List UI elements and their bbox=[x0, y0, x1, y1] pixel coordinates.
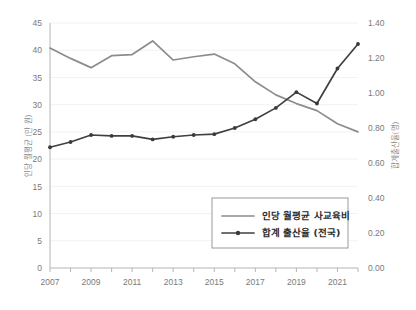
series-marker bbox=[192, 133, 196, 137]
series-marker bbox=[295, 90, 299, 94]
y-axis-left-tick-label: 15 bbox=[33, 182, 43, 192]
series-marker bbox=[110, 134, 114, 138]
series-marker bbox=[356, 42, 360, 46]
series-marker bbox=[274, 106, 278, 110]
x-axis-tick-label: 2015 bbox=[205, 277, 224, 287]
legend-marker-1 bbox=[236, 231, 240, 235]
series-marker bbox=[336, 67, 340, 71]
x-axis-tick-label: 2017 bbox=[246, 277, 265, 287]
y-axis-left-tick-label: 30 bbox=[33, 100, 43, 110]
series-marker bbox=[233, 126, 237, 130]
y-axis-left-tick-label: 35 bbox=[33, 73, 43, 83]
x-axis-tick-label: 2019 bbox=[287, 277, 306, 287]
y-axis-left-tick-label: 40 bbox=[33, 45, 43, 55]
y-axis-left-tick-label: 45 bbox=[33, 18, 43, 28]
legend-label-0: 인당 월평균 사교육비 bbox=[262, 210, 350, 221]
y-axis-right-tick-label: 0.00 bbox=[368, 263, 385, 273]
series-marker bbox=[212, 132, 216, 136]
series-marker bbox=[253, 117, 257, 121]
chart-legend: 인당 월평균 사교육비합계 출산율 (전국) bbox=[212, 198, 350, 248]
y-axis-left-tick-label: 20 bbox=[33, 154, 43, 164]
y-axis-left-title: 인당 월평균 (만 원) bbox=[23, 114, 33, 176]
y-axis-right-tick-label: 1.20 bbox=[368, 53, 385, 63]
x-axis-tick-label: 2011 bbox=[123, 277, 142, 287]
y-axis-right-tick-label: 1.40 bbox=[368, 18, 385, 28]
chart-background bbox=[0, 0, 416, 310]
series-marker bbox=[315, 102, 319, 106]
chart-container: 051015202530354045 0.000.200.400.600.801… bbox=[0, 0, 416, 310]
series-marker bbox=[130, 134, 134, 138]
y-axis-right-title: 합계출산율(명) bbox=[390, 122, 400, 170]
x-axis-tick-label: 2021 bbox=[328, 277, 347, 287]
y-axis-left-tick-label: 10 bbox=[33, 209, 43, 219]
series-marker bbox=[89, 133, 93, 137]
legend-box bbox=[212, 198, 348, 248]
x-axis-tick-label: 2013 bbox=[164, 277, 183, 287]
y-axis-left-tick-label: 0 bbox=[37, 263, 42, 273]
series-marker bbox=[151, 137, 155, 141]
y-axis-right-tick-label: 1.00 bbox=[368, 88, 385, 98]
y-axis-right-tick-label: 0.20 bbox=[368, 228, 385, 238]
y-axis-right-tick-label: 0.40 bbox=[368, 193, 385, 203]
series-marker bbox=[69, 140, 73, 144]
legend-label-1: 합계 출산율 (전국) bbox=[262, 227, 340, 238]
x-axis-tick-label: 2007 bbox=[41, 277, 60, 287]
y-axis-right-tick-label: 0.60 bbox=[368, 158, 385, 168]
y-axis-right-tick-label: 0.80 bbox=[368, 123, 385, 133]
line-chart: 051015202530354045 0.000.200.400.600.801… bbox=[0, 0, 416, 310]
series-marker bbox=[171, 135, 175, 139]
series-marker bbox=[48, 145, 52, 149]
x-axis-tick-label: 2009 bbox=[82, 277, 101, 287]
y-axis-left-tick-label: 5 bbox=[37, 236, 42, 246]
y-axis-left-tick-label: 25 bbox=[33, 127, 43, 137]
